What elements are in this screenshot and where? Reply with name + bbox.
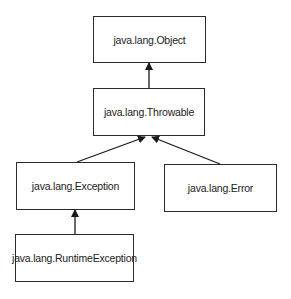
- arrow-error-to-throwable: [152, 137, 220, 164]
- node-error: java.lang.Error: [164, 164, 277, 212]
- node-exception-label: java.lang.Exception: [32, 180, 119, 192]
- node-object: java.lang.Object: [93, 16, 206, 63]
- node-exception: java.lang.Exception: [16, 162, 135, 210]
- node-error-label: java.lang.Error: [188, 182, 253, 194]
- node-throwable-label: java.lang.Throwable: [104, 106, 194, 118]
- node-object-label: java.lang.Object: [113, 34, 185, 46]
- node-runtime-exception: java.lang.RuntimeException: [15, 234, 134, 282]
- arrow-exception-to-throwable: [77, 137, 145, 162]
- node-runtime-exception-label: java.lang.RuntimeException: [12, 252, 137, 264]
- node-throwable: java.lang.Throwable: [93, 88, 205, 136]
